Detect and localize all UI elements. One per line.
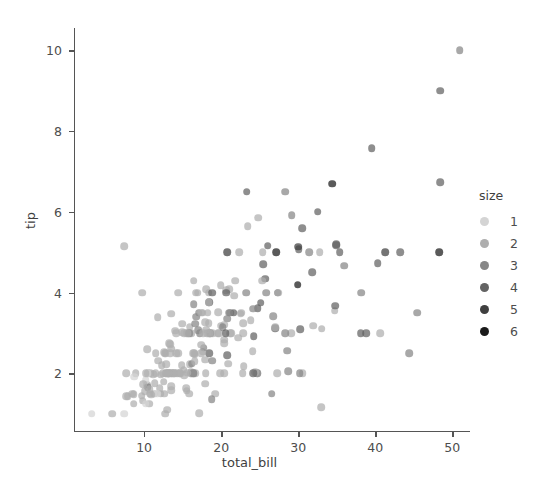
- data-point: [142, 400, 150, 408]
- data-point: [406, 349, 414, 357]
- data-point: [257, 299, 265, 307]
- data-point: [209, 329, 217, 337]
- data-point: [184, 329, 192, 337]
- x-tick: [452, 432, 453, 437]
- legend-entry: 6: [478, 320, 542, 342]
- data-point: [396, 248, 404, 256]
- data-point: [168, 387, 176, 395]
- legend-entry-label: 1: [510, 214, 518, 229]
- y-tick-label: 2: [36, 366, 62, 381]
- data-point: [167, 349, 175, 357]
- data-point: [258, 277, 266, 285]
- x-tick: [298, 432, 299, 437]
- data-point: [294, 281, 302, 289]
- data-point: [184, 369, 192, 377]
- data-point: [185, 390, 193, 398]
- data-point: [202, 380, 210, 388]
- data-point: [281, 329, 289, 337]
- legend-swatch-icon: [480, 327, 489, 336]
- legend-entry-label: 5: [510, 302, 518, 317]
- y-axis-label: tip: [23, 212, 38, 229]
- data-point: [435, 248, 443, 256]
- data-point: [199, 329, 207, 337]
- data-point: [235, 334, 243, 342]
- data-point: [333, 242, 341, 250]
- data-point: [222, 329, 230, 337]
- data-point: [147, 391, 155, 399]
- data-point: [273, 248, 281, 256]
- legend: size 123456: [478, 188, 542, 342]
- data-point: [191, 358, 199, 366]
- data-point: [250, 305, 258, 313]
- data-point: [268, 390, 276, 398]
- data-point: [154, 313, 162, 321]
- x-tick-label: 50: [444, 440, 460, 455]
- x-tick-label: 20: [213, 440, 229, 455]
- x-axis-label: total_bill: [0, 455, 545, 470]
- data-point: [122, 370, 130, 378]
- data-point: [178, 320, 186, 328]
- data-point: [204, 309, 212, 317]
- data-point: [161, 410, 169, 418]
- data-point: [158, 362, 166, 370]
- data-point: [202, 370, 210, 378]
- data-point: [152, 349, 160, 357]
- data-point: [142, 370, 150, 378]
- data-point: [130, 400, 138, 408]
- legend-entry: 4: [478, 276, 542, 298]
- data-point: [296, 370, 304, 378]
- data-point: [164, 370, 172, 378]
- data-point: [222, 289, 230, 297]
- x-axis-label-text: total_bill: [222, 455, 277, 470]
- legend-entry-label: 2: [510, 236, 518, 251]
- data-point: [309, 269, 317, 277]
- data-point: [284, 368, 292, 376]
- x-tick: [221, 432, 222, 437]
- legend-entries: 123456: [478, 210, 542, 342]
- y-tick: [69, 131, 74, 132]
- data-point: [250, 332, 258, 340]
- legend-entry: 3: [478, 254, 542, 276]
- data-point: [205, 319, 213, 327]
- data-point: [368, 144, 376, 152]
- data-point: [329, 180, 337, 188]
- y-tick-label: 10: [36, 43, 62, 58]
- data-point: [274, 289, 282, 297]
- data-point: [237, 310, 245, 318]
- legend-entry: 2: [478, 232, 542, 254]
- legend-entry-label: 6: [510, 324, 518, 339]
- data-point: [274, 370, 282, 378]
- data-point: [244, 222, 252, 230]
- data-point: [190, 301, 198, 309]
- data-point: [225, 309, 233, 317]
- data-point: [167, 341, 175, 349]
- legend-swatch-icon: [480, 305, 489, 314]
- data-point: [217, 370, 225, 378]
- legend-swatch-icon: [480, 217, 489, 226]
- data-point: [109, 410, 117, 418]
- legend-entry: 1: [478, 210, 542, 232]
- data-point: [168, 310, 176, 318]
- data-point: [358, 289, 366, 297]
- data-point: [239, 370, 247, 378]
- data-point: [298, 224, 306, 232]
- data-point: [314, 208, 322, 216]
- data-point: [217, 281, 225, 289]
- data-point: [377, 329, 385, 337]
- data-point: [144, 345, 152, 353]
- data-point: [214, 309, 222, 317]
- legend-entry-label: 4: [510, 280, 518, 295]
- data-point: [224, 360, 232, 368]
- data-point: [305, 248, 313, 256]
- data-point: [288, 211, 296, 219]
- data-point: [262, 289, 270, 297]
- data-point: [191, 320, 199, 328]
- data-point: [224, 248, 232, 256]
- data-point: [195, 410, 203, 418]
- data-point: [190, 349, 198, 357]
- data-point: [120, 410, 128, 418]
- legend-title: size: [478, 188, 542, 203]
- data-point: [220, 336, 228, 344]
- data-point: [336, 248, 344, 256]
- y-tick: [69, 373, 74, 374]
